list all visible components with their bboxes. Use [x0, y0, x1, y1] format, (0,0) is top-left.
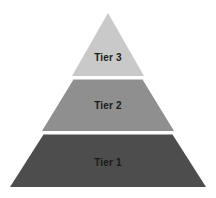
tier-2-label: Tier 2 — [0, 100, 216, 111]
tier-3-segment — [72, 13, 144, 76]
pyramid-diagram: Tier 3 Tier 2 Tier 1 — [0, 0, 216, 198]
tier-3-label: Tier 3 — [0, 52, 216, 63]
tier-1-label: Tier 1 — [0, 157, 216, 168]
pyramid-shape — [0, 0, 216, 198]
